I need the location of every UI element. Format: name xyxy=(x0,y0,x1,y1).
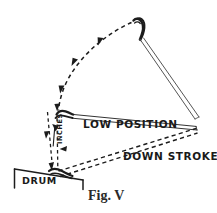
label-inches: INCHES xyxy=(56,113,64,144)
raised-stick-head xyxy=(134,18,145,40)
label-drum: DRUM xyxy=(22,175,57,186)
figure-caption: Fig. V xyxy=(88,188,124,203)
raised-stick-shaft xyxy=(140,38,199,119)
figure-v-drumstick-diagram: LOW POSITION DOWN STROKE DRUM INCHES Fig… xyxy=(0,0,217,213)
stroke-path-arc xyxy=(54,23,131,112)
label-down-stroke: DOWN STROKE xyxy=(123,150,217,162)
label-low-position: LOW POSITION xyxy=(83,118,178,130)
diagram-canvas: LOW POSITION DOWN STROKE DRUM INCHES Fig… xyxy=(0,0,217,213)
